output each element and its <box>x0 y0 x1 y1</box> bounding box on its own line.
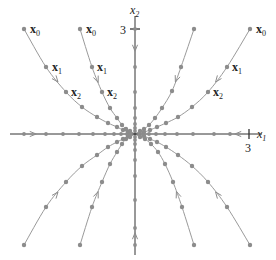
y-axis-point <box>133 142 137 146</box>
point-label-x2: x2 <box>71 85 81 101</box>
trajectory-point <box>95 115 99 119</box>
trajectory-point <box>155 140 159 144</box>
trajectory-point <box>179 65 183 69</box>
trajectory-point <box>176 115 180 119</box>
y-axis-point <box>133 65 137 69</box>
y-axis-point <box>133 174 137 178</box>
y-axis-point <box>133 148 137 152</box>
trajectory-point <box>248 243 252 247</box>
trajectory-point <box>180 205 184 209</box>
y-tick-label-3: 3 <box>120 23 126 37</box>
y-axis-point <box>133 129 137 133</box>
trajectory-point <box>22 243 26 247</box>
trajectory-point <box>190 164 194 168</box>
trajectory-point <box>149 142 153 146</box>
trajectory-lower-left-inner <box>80 134 135 245</box>
trajectory-point <box>148 137 152 141</box>
trajectory-point <box>153 116 157 120</box>
x-axis-point <box>112 132 116 136</box>
trajectory-point <box>78 243 82 247</box>
trajectory-point <box>120 142 124 146</box>
y-axis-point <box>133 198 137 202</box>
trajectory-point <box>108 162 112 166</box>
trajectory-point <box>78 27 82 31</box>
trajectory-upper-right-outer <box>135 29 250 134</box>
y-axis-point <box>133 243 137 247</box>
trajectory-point <box>142 134 146 138</box>
trajectory-point <box>120 123 124 127</box>
x-axis-point <box>191 132 195 136</box>
x2-axis-label: x2 <box>129 3 139 19</box>
phase-portrait-diagram: x0x1x2x0x1x2x0x1x2 x1 x2 3 3 <box>0 0 276 260</box>
trajectory-point <box>64 90 68 94</box>
trajectory-point <box>106 145 110 149</box>
trajectory-point <box>44 205 48 209</box>
x-axis-point <box>154 132 158 136</box>
trajectory-point <box>124 137 128 141</box>
trajectory-point <box>108 106 112 110</box>
point-label-x2: x2 <box>213 85 223 101</box>
trajectory-point <box>225 205 229 209</box>
phase-portrait-svg: x0x1x2x0x1x2x0x1x2 x1 x2 3 3 <box>0 0 276 260</box>
y-axis-point <box>133 106 137 110</box>
trajectory-point <box>190 105 194 109</box>
point-label-x1: x1 <box>232 60 242 76</box>
trajectory-point <box>142 130 146 134</box>
point-label-x2: x2 <box>107 85 117 101</box>
x-axis-point <box>91 132 95 136</box>
trajectory-upper-left-inner <box>80 29 135 134</box>
trajectory-point <box>147 123 151 127</box>
trajectory-point <box>148 128 152 132</box>
trajectory-point <box>164 121 168 125</box>
point-label-x1: x1 <box>97 60 107 76</box>
y-axis-point <box>133 27 137 31</box>
x-axis-point <box>103 132 107 136</box>
trajectory-point <box>115 116 119 120</box>
trajectory-point <box>248 27 252 31</box>
trajectory-point <box>138 129 142 133</box>
x-axis-point <box>44 132 48 136</box>
trajectory-point <box>90 65 94 69</box>
trajectory-point <box>192 243 196 247</box>
x-tick-label-3: 3 <box>245 141 251 155</box>
trajectory-point <box>225 65 229 69</box>
trajectory-point <box>128 135 132 139</box>
x-axis-point <box>61 132 65 136</box>
trajectory-point <box>206 90 210 94</box>
trajectory-point <box>100 90 104 94</box>
trajectory-point <box>95 153 99 157</box>
trajectory-upper-right-inner <box>135 29 194 134</box>
trajectory-point <box>80 164 84 168</box>
y-axis-point <box>133 116 137 120</box>
point-label-x0: x0 <box>30 22 40 38</box>
x1-axis-label: x1 <box>256 127 266 143</box>
x-axis-point <box>175 132 179 136</box>
trajectory-point <box>192 27 196 31</box>
trajectory-point <box>100 180 104 184</box>
trajectory-point <box>64 180 68 184</box>
trajectory-point <box>128 129 132 133</box>
y-axis-point <box>133 138 137 142</box>
trajectory-point <box>115 150 119 154</box>
trajectory-point <box>171 180 175 184</box>
trajectory-point <box>115 125 119 129</box>
trajectory-lower-right-outer <box>135 134 250 245</box>
trajectory-point <box>156 150 160 154</box>
point-label-x1: x1 <box>52 60 62 76</box>
x-axis-point <box>119 132 123 136</box>
point-label-x0: x0 <box>256 22 266 38</box>
trajectory-point <box>170 89 174 93</box>
trajectory-point <box>124 127 128 131</box>
x-axis-point <box>228 132 232 136</box>
trajectory-point <box>80 105 84 109</box>
trajectory-lower-right-inner <box>135 134 194 245</box>
trajectory-point <box>163 162 167 166</box>
trajectory-point <box>206 180 210 184</box>
trajectory-point <box>155 125 159 129</box>
trajectory-point <box>90 205 94 209</box>
x-axis-point <box>212 132 216 136</box>
point-label-x0: x0 <box>86 22 96 38</box>
y-axis-point <box>133 158 137 162</box>
x-axis-point <box>77 132 81 136</box>
trajectory-point <box>115 140 119 144</box>
